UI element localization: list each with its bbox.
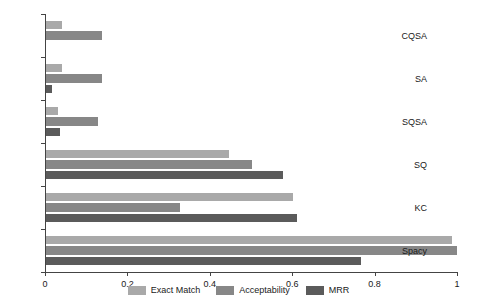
group-tick [41, 100, 45, 101]
bar-sqsa-acceptability [46, 117, 98, 126]
legend-label: MRR [329, 285, 350, 295]
x-tick [292, 272, 293, 276]
bar-spacy-exact-match [46, 236, 452, 245]
legend-swatch-icon [306, 286, 324, 295]
bar-sqsa-mrr [46, 128, 60, 137]
group-tick [41, 272, 45, 273]
x-tick [45, 272, 46, 276]
legend-item-exact-match[interactable]: Exact Match [128, 285, 201, 295]
y-axis-line [45, 14, 46, 272]
x-tick [127, 272, 128, 276]
y-axis-label-cqsa: CQSA [401, 31, 427, 41]
bar-sq-exact-match [46, 150, 229, 159]
x-axis-line [45, 272, 457, 273]
legend-item-mrr[interactable]: MRR [306, 285, 350, 295]
bar-sa-exact-match [46, 64, 62, 73]
x-tick [375, 272, 376, 276]
bar-chart: 00.20.40.60.81 CQSASASQSASQKCSpacy Exact… [0, 0, 477, 306]
legend-swatch-icon [128, 286, 146, 295]
legend-label: Acceptability [239, 285, 290, 295]
y-axis-label-sqsa: SQSA [402, 117, 427, 127]
bar-spacy-mrr [46, 257, 361, 266]
group-tick [41, 14, 45, 15]
legend-label: Exact Match [151, 285, 201, 295]
bar-sqsa-exact-match [46, 107, 58, 116]
bar-sq-mrr [46, 171, 283, 180]
y-axis-label-sa: SA [415, 74, 427, 84]
bar-kc-exact-match [46, 193, 293, 202]
chart-legend: Exact MatchAcceptabilityMRR [0, 285, 477, 295]
bar-cqsa-acceptability [46, 31, 102, 40]
y-axis-label-kc: KC [414, 203, 427, 213]
legend-swatch-icon [216, 286, 234, 295]
legend-item-acceptability[interactable]: Acceptability [216, 285, 290, 295]
y-axis-label-spacy: Spacy [402, 246, 427, 256]
bar-kc-mrr [46, 214, 297, 223]
group-tick [41, 143, 45, 144]
bar-cqsa-exact-match [46, 21, 62, 30]
plot-area: 00.20.40.60.81 [45, 14, 457, 272]
bar-sq-acceptability [46, 160, 252, 169]
x-tick [210, 272, 211, 276]
group-tick [41, 229, 45, 230]
x-tick [457, 272, 458, 276]
group-tick [41, 57, 45, 58]
bar-sa-mrr [46, 85, 52, 94]
y-axis-label-sq: SQ [414, 160, 427, 170]
bar-kc-acceptability [46, 203, 180, 212]
bar-sa-acceptability [46, 74, 102, 83]
bar-spacy-acceptability [46, 246, 457, 255]
group-tick [41, 186, 45, 187]
